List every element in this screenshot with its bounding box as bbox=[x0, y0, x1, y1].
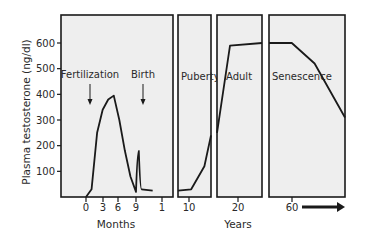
y-tick-label: 400 bbox=[36, 89, 55, 100]
y-tick-label: 300 bbox=[36, 115, 55, 126]
x-axis-label-months: Months bbox=[97, 218, 135, 230]
x-axis-label-years: Years bbox=[223, 218, 252, 230]
x-tick-label: 60 bbox=[286, 202, 299, 213]
testosterone-lifespan-chart: PubertyAdultSenescence 10020030040050060… bbox=[0, 0, 365, 240]
right-arrow-icon bbox=[302, 202, 345, 212]
annotation-birth: Birth bbox=[131, 69, 155, 80]
x-tick-label: 20 bbox=[232, 202, 245, 213]
y-axis: 100200300400500600 bbox=[36, 38, 61, 177]
x-tick-label: 10 bbox=[183, 202, 196, 213]
y-tick-label: 500 bbox=[36, 63, 55, 74]
x-tick-label: 9 bbox=[133, 202, 139, 213]
x-tick-label: 0 bbox=[83, 202, 89, 213]
y-tick-label: 100 bbox=[36, 166, 55, 177]
y-tick-label: 200 bbox=[36, 140, 55, 151]
panel-label-adult: Adult bbox=[226, 71, 252, 82]
panel-label-puberty: Puberty bbox=[181, 71, 220, 82]
x-axis-ticks: 03691102060 bbox=[83, 197, 299, 213]
y-axis-label: Plasma testosterone (ng/dl) bbox=[20, 39, 32, 184]
x-tick-label: 3 bbox=[100, 202, 106, 213]
panel-puberty bbox=[178, 15, 211, 197]
annotation-fertilization: Fertilization bbox=[61, 69, 119, 80]
x-tick-label: 1 bbox=[159, 202, 165, 213]
panel-adult bbox=[217, 15, 262, 197]
y-tick-label: 600 bbox=[36, 38, 55, 49]
x-tick-label: 6 bbox=[115, 202, 121, 213]
